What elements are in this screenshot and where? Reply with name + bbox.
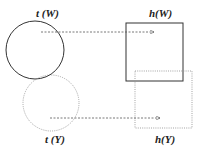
label-h-w: h(W) bbox=[149, 7, 172, 20]
circle-t-w bbox=[6, 21, 64, 79]
label-t-w: t (W) bbox=[36, 7, 59, 20]
diagram-canvas: t (W) t (Y) h(W) h(Y) bbox=[0, 0, 201, 156]
label-h-y: h(Y) bbox=[155, 133, 175, 146]
circle-t-y bbox=[23, 75, 79, 131]
label-t-y: t (Y) bbox=[45, 133, 65, 146]
